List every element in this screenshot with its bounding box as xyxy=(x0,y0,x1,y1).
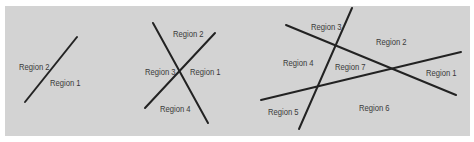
region-label: Region 6 xyxy=(359,103,390,113)
region-label: Region 1 xyxy=(50,78,81,88)
region-label: Region 4 xyxy=(160,104,191,114)
region-label: Region 7 xyxy=(335,62,366,72)
region-label: Region 1 xyxy=(426,68,457,78)
region-label: Region 2 xyxy=(376,37,407,47)
region-label: Region 3 xyxy=(311,22,342,32)
region-label: Region 2 xyxy=(19,62,50,72)
region-label: Region 3 xyxy=(145,67,176,77)
region-lines-diagram xyxy=(0,0,474,142)
region-label: Region 1 xyxy=(190,67,221,77)
region-label: Region 2 xyxy=(173,29,204,39)
dividing-lines xyxy=(25,8,461,129)
region-label: Region 5 xyxy=(268,107,299,117)
region-label: Region 4 xyxy=(283,58,314,68)
